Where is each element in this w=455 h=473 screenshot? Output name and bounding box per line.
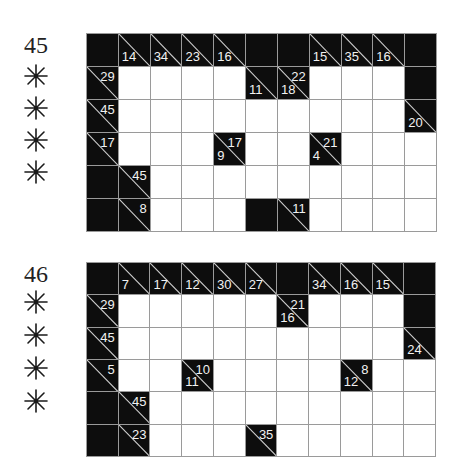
empty-cell[interactable] xyxy=(373,425,404,456)
empty-cell[interactable] xyxy=(214,328,245,359)
clue-down-sum: 30 xyxy=(217,278,231,291)
clue-cell: 29 xyxy=(87,295,118,326)
empty-cell[interactable] xyxy=(277,328,308,359)
empty-cell[interactable] xyxy=(150,425,181,456)
black-block xyxy=(87,392,118,423)
empty-cell[interactable] xyxy=(404,392,435,423)
black-block xyxy=(404,295,435,326)
clue-cell: 34 xyxy=(309,263,340,294)
clue-cell: 7 xyxy=(119,263,150,294)
empty-cell[interactable] xyxy=(309,295,340,326)
asterisk-star-icon xyxy=(22,288,50,316)
clue-cell: 5 xyxy=(87,360,118,391)
empty-cell[interactable] xyxy=(182,392,213,423)
clue-across-sum: 21 xyxy=(291,298,305,311)
puzzle-46: 46 7171230273416152916214524511101284523… xyxy=(0,0,455,473)
clue-cell: 16 xyxy=(341,263,372,294)
clue-across-sum: 5 xyxy=(107,363,114,376)
asterisk-star-icon xyxy=(22,387,50,415)
clue-down-sum: 12 xyxy=(185,278,199,291)
clue-across-sum: 8 xyxy=(361,363,368,376)
clue-cell: 45 xyxy=(87,328,118,359)
clue-across-sum: 10 xyxy=(195,363,209,376)
clue-down-sum: 17 xyxy=(153,278,167,291)
black-block xyxy=(87,425,118,456)
empty-cell[interactable] xyxy=(246,295,277,326)
clue-cell: 12 xyxy=(182,263,213,294)
empty-cell[interactable] xyxy=(341,328,372,359)
clue-across-sum: 45 xyxy=(132,395,146,408)
clue-cell: 17 xyxy=(150,263,181,294)
empty-cell[interactable] xyxy=(150,360,181,391)
clue-cell: 45 xyxy=(119,392,150,423)
empty-cell[interactable] xyxy=(309,360,340,391)
clue-down-sum: 16 xyxy=(344,278,358,291)
empty-cell[interactable] xyxy=(214,360,245,391)
empty-cell[interactable] xyxy=(373,392,404,423)
clue-down-sum: 11 xyxy=(185,375,199,388)
clue-cell: 23 xyxy=(119,425,150,456)
black-block xyxy=(277,263,308,294)
empty-cell[interactable] xyxy=(277,360,308,391)
empty-cell[interactable] xyxy=(182,295,213,326)
clue-cell: 1110 xyxy=(182,360,213,391)
empty-cell[interactable] xyxy=(150,295,181,326)
clue-down-sum: 16 xyxy=(280,311,294,324)
clue-down-sum: 12 xyxy=(344,375,358,388)
empty-cell[interactable] xyxy=(214,295,245,326)
empty-cell[interactable] xyxy=(373,295,404,326)
black-block xyxy=(404,263,435,294)
empty-cell[interactable] xyxy=(214,392,245,423)
empty-cell[interactable] xyxy=(341,392,372,423)
empty-cell[interactable] xyxy=(373,328,404,359)
empty-cell[interactable] xyxy=(182,425,213,456)
empty-cell[interactable] xyxy=(182,328,213,359)
empty-cell[interactable] xyxy=(119,295,150,326)
clue-across-sum: 35 xyxy=(259,428,273,441)
empty-cell[interactable] xyxy=(119,360,150,391)
empty-cell[interactable] xyxy=(246,392,277,423)
empty-cell[interactable] xyxy=(309,392,340,423)
puzzle-number: 46 xyxy=(20,261,52,288)
empty-cell[interactable] xyxy=(150,328,181,359)
asterisk-star-icon xyxy=(22,321,50,349)
clue-cell: 15 xyxy=(373,263,404,294)
clue-cell: 128 xyxy=(341,360,372,391)
clue-down-sum: 7 xyxy=(122,278,129,291)
empty-cell[interactable] xyxy=(277,392,308,423)
clue-across-sum: 23 xyxy=(132,428,146,441)
kakuro-grid: 717123027341615291621452451110128452335 xyxy=(86,262,436,457)
empty-cell[interactable] xyxy=(119,328,150,359)
clue-cell: 30 xyxy=(214,263,245,294)
asterisk-star-icon xyxy=(22,354,50,382)
empty-cell[interactable] xyxy=(246,328,277,359)
empty-cell[interactable] xyxy=(309,425,340,456)
empty-cell[interactable] xyxy=(246,360,277,391)
clue-down-sum: 27 xyxy=(249,278,263,291)
empty-cell[interactable] xyxy=(277,425,308,456)
clue-cell: 1621 xyxy=(277,295,308,326)
clue-down-sum: 15 xyxy=(376,278,390,291)
empty-cell[interactable] xyxy=(404,425,435,456)
clue-down-sum: 24 xyxy=(407,343,421,356)
empty-cell[interactable] xyxy=(214,425,245,456)
empty-cell[interactable] xyxy=(150,392,181,423)
clue-down-sum: 34 xyxy=(312,278,326,291)
empty-cell[interactable] xyxy=(404,360,435,391)
empty-cell[interactable] xyxy=(309,328,340,359)
clue-cell: 24 xyxy=(404,328,435,359)
empty-cell[interactable] xyxy=(341,425,372,456)
clue-cell: 35 xyxy=(246,425,277,456)
clue-across-sum: 45 xyxy=(100,331,114,344)
black-block xyxy=(87,263,118,294)
empty-cell[interactable] xyxy=(341,295,372,326)
empty-cell[interactable] xyxy=(373,360,404,391)
clue-cell: 27 xyxy=(246,263,277,294)
clue-across-sum: 29 xyxy=(100,298,114,311)
